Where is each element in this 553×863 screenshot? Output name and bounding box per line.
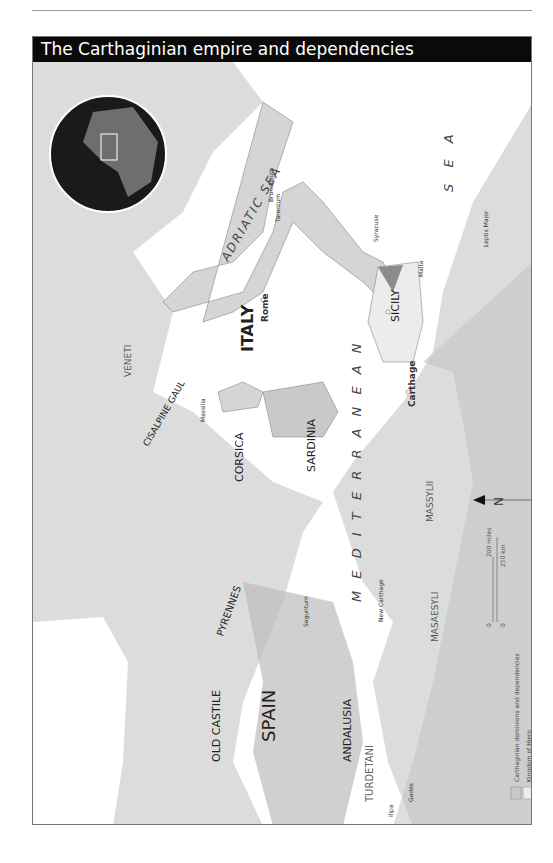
label-andalusia: ANDALUSIA bbox=[341, 699, 354, 762]
label-sicily: SICILY bbox=[389, 289, 402, 322]
scale-miles-max: 200 miles bbox=[485, 528, 492, 557]
label-sea: S E A bbox=[441, 128, 456, 192]
label-sardinia: SARDINIA bbox=[305, 418, 318, 472]
legend-swatch-carthaginian bbox=[511, 787, 521, 799]
city-carthage: Carthage bbox=[407, 361, 417, 407]
legend-label-carthaginian: Carthaginian dominions and dependencies bbox=[513, 653, 521, 782]
scale-km-zero: 0 bbox=[499, 623, 506, 627]
map-title: The Carthaginian empire and dependencies bbox=[33, 37, 531, 62]
city-tingis: Gades bbox=[407, 783, 414, 802]
label-spain: SPAIN bbox=[258, 690, 279, 742]
city-massilia: Massilia bbox=[199, 398, 206, 422]
top-rule bbox=[32, 10, 532, 11]
city-leptis-major: Leptis Major bbox=[482, 210, 490, 247]
legend-label-hiero: Kingdom of Hiero bbox=[525, 730, 532, 782]
label-veneti: VENETI bbox=[123, 345, 133, 377]
label-old-castile: OLD CASTILE bbox=[210, 690, 223, 762]
label-masaesyli: MASAESYLI bbox=[430, 591, 440, 642]
map-canvas: ITALY SICILY SARDINIA CORSICA SPAIN OLD … bbox=[33, 62, 532, 825]
north-label: N bbox=[492, 497, 506, 506]
scale-miles-zero: 0 bbox=[485, 623, 492, 627]
label-massylii: MASSYLII bbox=[425, 481, 435, 522]
label-italy: ITALY bbox=[238, 304, 257, 352]
city-tarentum: Tarentum bbox=[274, 194, 281, 223]
city-malta: Malta bbox=[417, 260, 424, 277]
label-corsica: CORSICA bbox=[233, 432, 246, 482]
scale-km-max: 250 km bbox=[499, 544, 506, 567]
city-brundisium: Brundisium bbox=[267, 168, 274, 202]
label-turdetani: TURDETANI bbox=[364, 745, 375, 803]
city-syracuse: Syracuse bbox=[372, 214, 380, 242]
city-gades: Ilipa bbox=[387, 804, 395, 817]
label-mediterranean: M E D I T E R R A N E A N bbox=[349, 339, 364, 602]
legend-swatch-hiero bbox=[523, 787, 532, 799]
city-new-carthage: New Carthage bbox=[377, 579, 385, 622]
city-saguntum: Saguntum bbox=[302, 596, 310, 627]
map-frame: The Carthaginian empire and dependencies… bbox=[32, 36, 532, 825]
city-rome: Rome bbox=[260, 293, 270, 322]
sardinia-land bbox=[263, 382, 338, 437]
bay-of-biscay bbox=[33, 617, 128, 825]
